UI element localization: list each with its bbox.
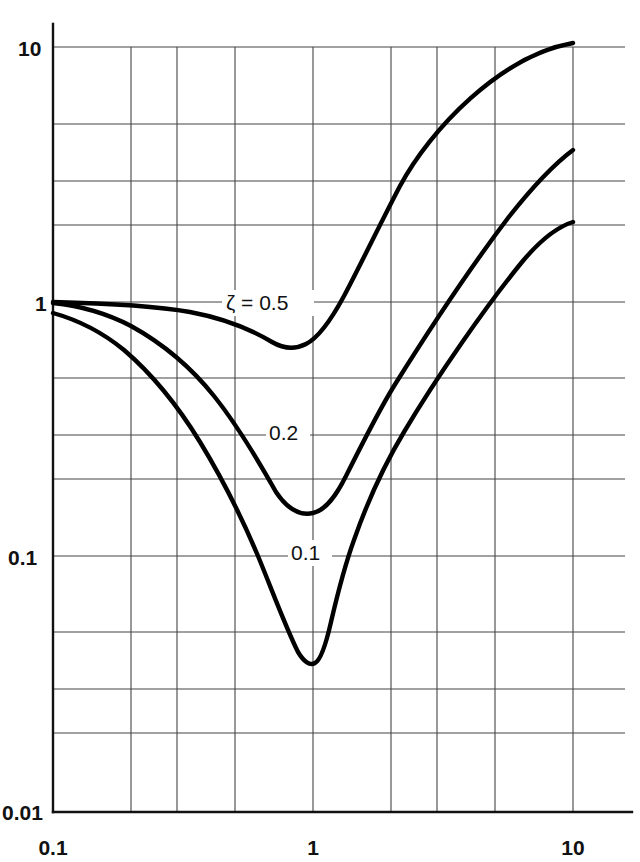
- axes: [53, 24, 632, 812]
- y-tick-label-10: 10: [18, 37, 41, 60]
- x-tick-label-0.1: 0.1: [38, 836, 68, 859]
- y-tick-label-1: 1: [35, 292, 47, 315]
- grid-horizontal: [53, 47, 625, 733]
- annotation-label-zeta-0.1: 0.1: [291, 541, 320, 564]
- curve-annotation-zeta-0.2: 0.2: [266, 420, 310, 446]
- curve-annotation-zeta-0.1: 0.1: [288, 540, 332, 566]
- curve-annotation-zeta-0.5: ζ = 0.5: [222, 290, 314, 316]
- grid-vertical: [131, 47, 573, 812]
- x-tick-label-10: 10: [561, 836, 584, 859]
- y-tick-label-0.01: 0.01: [2, 801, 43, 824]
- chart-svg: 10 1 0.1 0.01 0.1 1 10 ζ = 0.5 0.2 0.1: [0, 0, 640, 862]
- y-tick-label-0.1: 0.1: [8, 546, 38, 569]
- annotation-label-zeta-0.5: ζ = 0.5: [226, 291, 288, 314]
- annotation-label-zeta-0.2: 0.2: [269, 421, 298, 444]
- x-tick-label-1: 1: [307, 836, 319, 859]
- chart-figure: 10 1 0.1 0.01 0.1 1 10 ζ = 0.5 0.2 0.1: [0, 0, 640, 862]
